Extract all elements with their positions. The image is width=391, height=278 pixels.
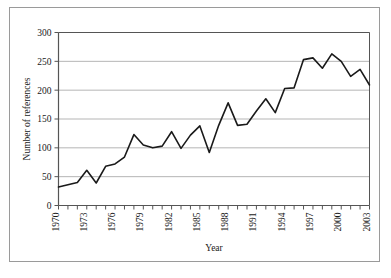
- x-axis-ticks-group: [59, 206, 370, 210]
- x-axis-tick-label: 1985: [192, 212, 202, 231]
- y-axis-tick-label: 0: [47, 201, 52, 211]
- x-axis-tick-label: 1982: [164, 212, 174, 231]
- y-axis-tick-label: 150: [37, 114, 52, 124]
- x-axis-tick-label: 1997: [305, 212, 315, 231]
- x-axis-tick-label: 1976: [107, 212, 117, 231]
- data-series-line: [59, 54, 370, 187]
- x-axis-tick-label: 2003: [362, 212, 372, 231]
- x-axis-tick-label: 1994: [277, 212, 287, 231]
- y-axis-title: Number of references: [22, 77, 32, 160]
- x-axis-tick-label: 2000: [333, 212, 343, 231]
- figure-container: 050100150200250300 197019731976197919821…: [0, 0, 391, 278]
- y-axis-tick-label: 250: [37, 57, 52, 67]
- x-axis-title: Year: [205, 243, 223, 253]
- x-axis-tick-label: 1973: [79, 212, 89, 231]
- y-axis-tick-label: 200: [37, 86, 52, 96]
- y-axis-tick-label: 50: [42, 172, 52, 182]
- y-axis-tick-label: 300: [37, 28, 52, 38]
- x-axis-tick-label: 1988: [220, 212, 230, 231]
- line-chart: 050100150200250300 197019731976197919821…: [0, 0, 391, 278]
- y-axis-tick-label: 100: [37, 143, 52, 153]
- x-axis-tick-label: 1970: [51, 212, 61, 231]
- gridlines-group: [59, 33, 370, 177]
- data-series-line-group: [59, 54, 370, 187]
- x-axis-tick-label: 1979: [135, 212, 145, 231]
- y-axis-tick-labels-group: 050100150200250300: [37, 28, 52, 211]
- x-axis-tick-labels-group: 1970197319761979198219851988199119941997…: [51, 212, 372, 231]
- x-axis-tick-label: 1991: [248, 212, 258, 231]
